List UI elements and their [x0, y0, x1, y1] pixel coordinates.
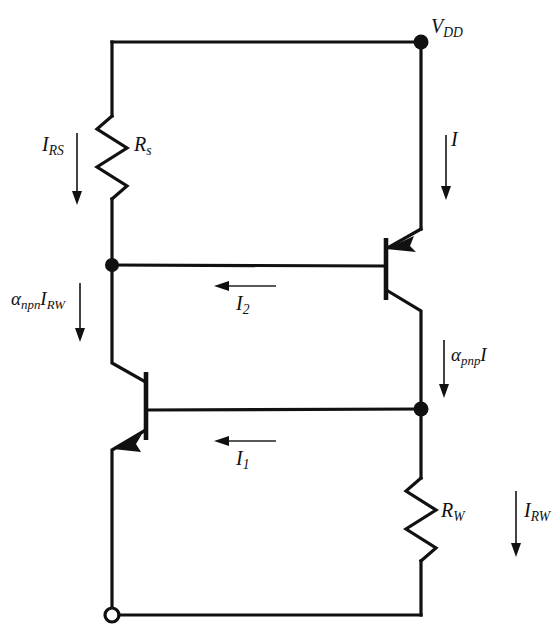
- current-i2-arrowhead: [214, 281, 229, 291]
- label-resistor-rs: Rs: [134, 134, 152, 157]
- terminal-ground-open-circle: [105, 608, 119, 622]
- schematic-canvas: VDD IRS Rs I αnpnIRW I2 αpnpI I1 RW IRW: [0, 0, 560, 635]
- current-i1-arrowhead: [214, 436, 229, 446]
- resistor-rw-zigzag: [406, 478, 436, 561]
- wire-npn-emitter-lead: [112, 431, 144, 615]
- label-current-alpha-pnp-i: αpnpI: [451, 345, 487, 368]
- npn-emitter-arrowhead: [113, 434, 142, 452]
- current-irs-arrowhead: [72, 191, 82, 205]
- label-current-i2: I2: [236, 293, 249, 316]
- current-alpha-pnp-i-arrowhead: [439, 384, 449, 398]
- circuit-schematic-svg: [0, 0, 560, 635]
- label-current-i1: I1: [236, 448, 249, 471]
- current-i-arrowhead: [441, 186, 451, 200]
- wire-npn-collector-lead: [112, 265, 144, 381]
- label-current-i: I: [451, 129, 458, 149]
- current-irw-arrowhead: [511, 543, 521, 557]
- pnp-emitter-arrowhead: [386, 236, 416, 252]
- label-current-alpha-npn-irw: αnpnIRW: [11, 289, 65, 312]
- label-vdd: VDD: [431, 16, 463, 39]
- current-alpha-npn-irw-arrowhead: [75, 328, 85, 342]
- label-resistor-rw: RW: [441, 500, 465, 523]
- label-current-irs: IRS: [42, 134, 64, 157]
- label-current-irw: IRW: [524, 500, 550, 523]
- resistor-rs-zigzag: [97, 116, 127, 199]
- wire-node-left-to-pnp-base: [112, 265, 386, 266]
- wire-node-right-to-npn-base: [147, 409, 421, 410]
- wire-pnp-collector-lead: [388, 291, 421, 409]
